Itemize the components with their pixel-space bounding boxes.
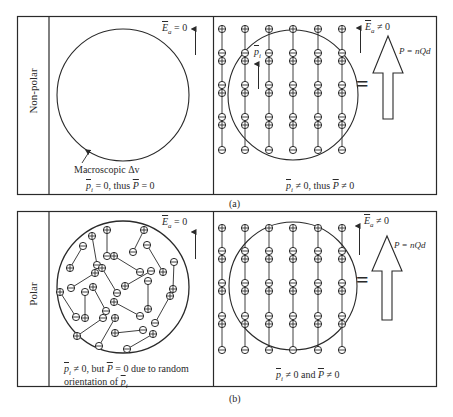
row-label-polar: Polar: [27, 269, 39, 319]
row-label-non-polar: Non-polar: [27, 66, 39, 116]
result-end-text: ≠ 0: [324, 369, 340, 380]
random-dipoles: [56, 221, 189, 353]
macroscopic-volume-label: Macroscopic Δv: [74, 165, 140, 175]
field-label-right-a: Ea ≠ 0: [365, 22, 390, 35]
result-label-left-b-line2: orientation of pi: [64, 377, 128, 390]
field-subscript: a: [168, 28, 172, 36]
polarization-formula: P = nQd: [394, 241, 425, 250]
macroscopic-volume-circle: [57, 29, 189, 161]
field-relation: ≠ 0: [376, 215, 389, 226]
panel-b: [18, 211, 437, 387]
equals-sign: =: [356, 73, 369, 95]
caption-a: (a): [229, 198, 240, 209]
result-mid-text: = 0, thus: [93, 180, 133, 191]
dipole-moment-label: pi: [254, 47, 261, 60]
aligned-dipole-lattice-a: [218, 25, 358, 160]
volume-pointer-arrow-icon: [82, 152, 89, 163]
field-label-right-b: Ea ≠ 0: [364, 216, 389, 229]
panel-b-frame: [18, 212, 437, 387]
result-mid-text: ≠ 0 and: [283, 369, 318, 380]
polarization-formula: P = nQd: [399, 47, 430, 56]
field-subscript: a: [168, 222, 172, 230]
result-label-left-a: pi = 0, thus P = 0: [86, 181, 155, 194]
field-relation: ≠ 0: [377, 21, 390, 32]
aligned-dipole-lattice-b: [218, 222, 357, 354]
diagram-canvas: [0, 0, 453, 417]
result-label-right-b: pi ≠ 0 and P ≠ 0: [276, 370, 340, 383]
dipole-subscript: i: [126, 382, 128, 390]
result-label-right-a: pi ≠ 0, thus P ≠ 0: [286, 181, 354, 194]
field-subscript: a: [371, 27, 375, 35]
result-pre-text: orientation of: [64, 376, 121, 387]
field-relation: = 0: [174, 216, 187, 227]
result-end-text: = 0: [139, 180, 155, 191]
result-mid-text: ≠ 0, but: [71, 363, 107, 374]
equals-sign: =: [356, 269, 369, 291]
field-label-left-a: Ea = 0: [162, 23, 187, 36]
caption-b: (b): [229, 393, 241, 404]
result-mid-text: ≠ 0, thus: [293, 180, 333, 191]
field-relation: = 0: [174, 22, 187, 33]
result-end-text: = 0 due to random: [113, 363, 189, 374]
result-end-text: ≠ 0: [339, 180, 355, 191]
field-subscript: a: [370, 221, 374, 229]
field-label-left-b: Ea = 0: [162, 217, 187, 230]
dipole-subscript: i: [259, 52, 261, 60]
